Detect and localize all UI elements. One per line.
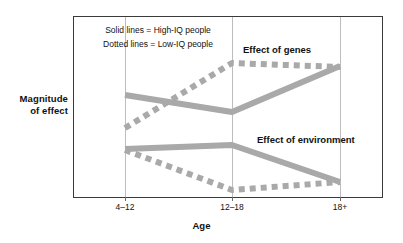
x-tick-label-12-18: 12–18 [220,202,244,212]
y-axis-title-line-2: of effect [0,105,68,117]
annotation-effect-of-environment: Effect of environment [257,134,355,145]
legend-item-dotted: Dotted lines = Low-IQ people [103,39,213,49]
x-tick-label-4-12: 4–12 [116,202,135,212]
annotation-effect-of-genes: Effect of genes [243,44,311,55]
legend-item-solid: Solid lines = High-IQ people [105,25,211,35]
x-tick-label-18-plus: 18+ [333,202,347,212]
y-axis-title-line-1: Magnitude [0,93,68,105]
y-axis-title: Magnitude of effect [0,93,68,117]
x-axis-title: Age [0,220,403,231]
chart-figure: Solid lines = High-IQ people Dotted line… [0,0,403,243]
